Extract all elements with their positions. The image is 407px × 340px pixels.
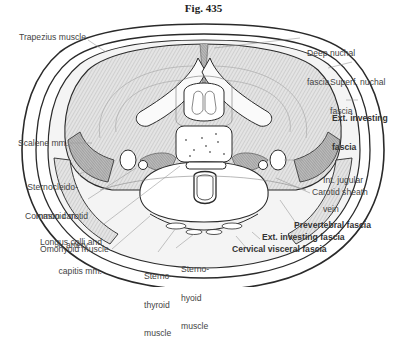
label-line: Sterno- — [144, 272, 172, 282]
label-carotid-sheath: Carotid sheath — [312, 188, 368, 198]
label-line: Ext. investing — [332, 114, 388, 124]
label-line: Superf. nuchal — [330, 78, 385, 88]
label-line: vein — [323, 205, 363, 215]
label-line: capitis mm. — [20, 267, 102, 277]
label-sternohyoid-muscle: Sterno- hyoid muscle — [181, 246, 209, 340]
label-line: muscle — [144, 329, 172, 339]
label-line: Deep nuchal — [307, 49, 355, 59]
label-line: hyoid — [181, 294, 209, 304]
label-trapezius-muscle: Trapezius muscle — [19, 33, 86, 43]
label-line: Sterno- — [181, 265, 209, 275]
label-omohyoid-muscle: Omohyoid muscle — [40, 245, 109, 255]
label-line: muscle — [181, 322, 209, 332]
label-ext-investing-fascia-top: Ext. investing fascia — [332, 95, 388, 162]
label-scalene-muscles: Scalene mm. — [18, 139, 68, 149]
label-line: Int. jugular — [323, 176, 363, 186]
label-sternothyroid-muscle: Sterno- thyroid muscle — [144, 253, 172, 340]
label-line: Sternocleido- — [12, 183, 78, 193]
label-ext-investing-fascia-bottom: Ext. investing fascia — [262, 233, 345, 243]
label-prevertebral-fascia: Prevertebral fascia — [294, 221, 371, 231]
label-cervical-visceral-fascia: Cervical visceral fascia — [232, 245, 327, 255]
label-line: fascia — [332, 143, 388, 153]
label-line: thyroid — [144, 301, 172, 311]
